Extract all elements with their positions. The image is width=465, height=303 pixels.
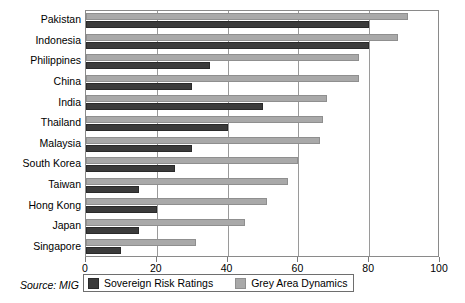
bar-grey-area-dynamics [86, 219, 245, 226]
bar-grey-area-dynamics [86, 137, 320, 144]
bar-grey-area-dynamics [86, 239, 196, 246]
bar-grey-area-dynamics [86, 54, 359, 61]
chart-legend: Sovereign Risk RatingsGrey Area Dynamics [83, 274, 354, 292]
bar-group [86, 176, 438, 197]
bar-sovereign-risk-ratings [86, 227, 139, 234]
bar-group [86, 217, 438, 238]
legend-item: Grey Area Dynamics [235, 277, 347, 289]
bar-group [86, 11, 438, 32]
bar-group [86, 32, 438, 53]
bar-grey-area-dynamics [86, 34, 398, 41]
y-axis-label-malaysia: Malaysia [0, 138, 81, 149]
y-axis-label-japan: Japan [0, 220, 81, 231]
bar-sovereign-risk-ratings [86, 21, 369, 28]
bar-sovereign-risk-ratings [86, 103, 263, 110]
bar-sovereign-risk-ratings [86, 124, 228, 131]
bar-grey-area-dynamics [86, 95, 327, 102]
x-axis-label-20: 20 [136, 262, 176, 274]
bar-group [86, 114, 438, 135]
bar-grey-area-dynamics [86, 116, 323, 123]
bar-grey-area-dynamics [86, 75, 359, 82]
source-note: Source: MIG [20, 279, 79, 291]
bar-chart: PakistanIndonesiaPhilippinesChinaIndiaTh… [0, 0, 465, 303]
y-axis-label-china: China [0, 76, 81, 87]
bar-grey-area-dynamics [86, 178, 288, 185]
x-axis-label-100: 100 [419, 262, 459, 274]
bar-group [86, 135, 438, 156]
bar-sovereign-risk-ratings [86, 145, 192, 152]
legend-label: Sovereign Risk Ratings [104, 277, 213, 289]
legend-label: Grey Area Dynamics [251, 277, 347, 289]
bar-group [86, 237, 438, 258]
y-axis-label-taiwan: Taiwan [0, 179, 81, 190]
y-axis-label-india: India [0, 97, 81, 108]
dark-swatch-icon [88, 278, 99, 289]
bar-sovereign-risk-ratings [86, 42, 369, 49]
y-axis-label-hong-kong: Hong Kong [0, 200, 81, 211]
y-axis-label-philippines: Philippines [0, 55, 81, 66]
y-axis-label-thailand: Thailand [0, 117, 81, 128]
x-axis-label-80: 80 [348, 262, 388, 274]
bar-sovereign-risk-ratings [86, 62, 210, 69]
y-axis-label-south-korea: South Korea [0, 158, 81, 169]
bar-sovereign-risk-ratings [86, 247, 121, 254]
bar-grey-area-dynamics [86, 157, 298, 164]
y-axis-label-indonesia: Indonesia [0, 35, 81, 46]
bar-group [86, 93, 438, 114]
bar-group [86, 196, 438, 217]
y-axis-label-singapore: Singapore [0, 241, 81, 252]
bar-grey-area-dynamics [86, 198, 267, 205]
bar-grey-area-dynamics [86, 13, 408, 20]
bar-group [86, 52, 438, 73]
plot-area [85, 10, 439, 257]
bar-group [86, 155, 438, 176]
grey-swatch-icon [235, 278, 246, 289]
bar-group [86, 73, 438, 94]
x-axis-label-40: 40 [207, 262, 247, 274]
x-axis-label-0: 0 [65, 262, 105, 274]
x-axis-label-60: 60 [277, 262, 317, 274]
bar-sovereign-risk-ratings [86, 206, 157, 213]
bar-sovereign-risk-ratings [86, 83, 192, 90]
bar-sovereign-risk-ratings [86, 186, 139, 193]
bar-sovereign-risk-ratings [86, 165, 175, 172]
legend-item: Sovereign Risk Ratings [88, 277, 213, 289]
y-axis-label-pakistan: Pakistan [0, 14, 81, 25]
